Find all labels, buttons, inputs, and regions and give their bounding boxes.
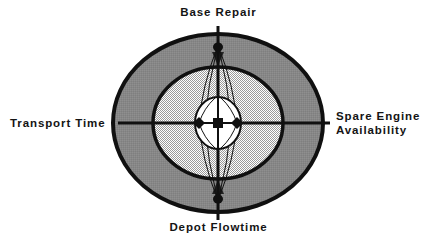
label-depot-flowtime-text: Depot Flowtime	[0, 221, 437, 235]
label-transport-time: Transport Time	[10, 117, 105, 131]
label-base-repair: Base Repair	[0, 6, 437, 20]
label-depot-flowtime: Depot Flowtime	[0, 221, 437, 235]
label-spare-engine-line2: Availability	[336, 124, 420, 138]
label-transport-time-text: Transport Time	[10, 117, 105, 131]
label-base-repair-text: Base Repair	[0, 6, 437, 20]
center-marker	[213, 118, 223, 128]
label-spare-engine-line1: Spare Engine	[336, 110, 420, 124]
influence-diagram: Base Repair Transport Time Spare Engine …	[0, 0, 437, 246]
label-spare-engine-availability: Spare Engine Availability	[336, 110, 420, 137]
